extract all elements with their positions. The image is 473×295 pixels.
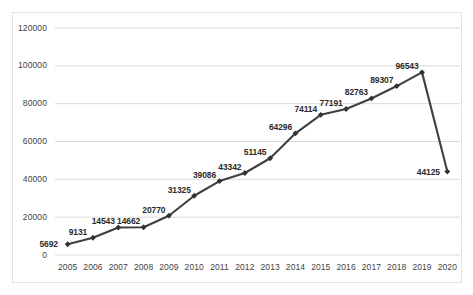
data-point-label: 96543 [390, 61, 424, 71]
y-axis-tick-label: 20000 [3, 212, 47, 222]
data-point-label: 77191 [314, 98, 348, 108]
y-axis-tick-label: 40000 [3, 174, 47, 184]
data-point-label: 89307 [365, 75, 399, 85]
data-point-label: 5692 [32, 239, 66, 249]
y-axis-tick-label: 60000 [3, 136, 47, 146]
data-point-label: 31325 [162, 185, 196, 195]
data-point-label: 14662 [112, 216, 146, 226]
y-axis-tick-label: 80000 [3, 98, 47, 108]
y-axis-tick-label: 120000 [3, 23, 47, 33]
line-chart-plot [0, 0, 473, 295]
data-point-label: 44125 [411, 167, 445, 177]
data-point-label: 64296 [263, 122, 297, 132]
data-point-label: 9131 [61, 227, 95, 237]
x-axis-tick-label: 2020 [432, 262, 462, 272]
data-point-label: 20770 [137, 205, 171, 215]
y-axis-tick-label: 100000 [3, 60, 47, 70]
data-point-label: 51145 [238, 147, 272, 157]
y-axis-tick-label: 0 [3, 250, 47, 260]
data-point-label: 43342 [213, 162, 247, 172]
data-point-label: 82763 [339, 87, 373, 97]
